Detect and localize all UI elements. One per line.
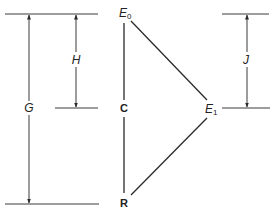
dimension-h: H [72, 15, 81, 107]
edge-e0-e1 [131, 21, 207, 100]
energy-level-diagram: G H J E0 C R E1 [0, 0, 274, 211]
node-e0: E0 [119, 6, 132, 21]
edge-e1-r [131, 118, 207, 195]
node-e1: E1 [205, 102, 218, 117]
dimension-j: J [242, 15, 250, 107]
label-h: H [72, 53, 81, 67]
node-c: C [120, 102, 128, 114]
dimension-g: G [24, 15, 33, 203]
label-g: G [24, 101, 33, 115]
node-r: R [120, 197, 128, 209]
label-j: J [242, 53, 250, 67]
